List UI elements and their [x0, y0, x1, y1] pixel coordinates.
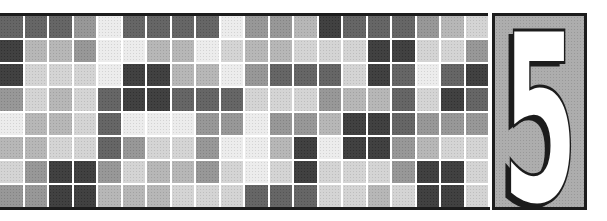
mosaic-tile [196, 88, 219, 110]
mosaic-tile [74, 113, 97, 135]
mosaic-tile [466, 161, 489, 183]
mosaic-tile [466, 88, 489, 110]
mosaic-tile [294, 161, 317, 183]
mosaic-tile [466, 64, 489, 86]
mosaic-tile [294, 16, 317, 38]
mosaic-tile [221, 185, 244, 207]
mosaic-tile [49, 161, 72, 183]
mosaic-tile [368, 88, 391, 110]
mosaic-tile [123, 64, 146, 86]
mosaic-tile [270, 40, 293, 62]
mosaic-tile [25, 16, 48, 38]
mosaic-tile [49, 137, 72, 159]
mosaic-tile [319, 137, 342, 159]
mosaic-tile [147, 113, 170, 135]
mosaic-tile [343, 185, 366, 207]
mosaic-tile [0, 161, 23, 183]
mosaic-tile [123, 16, 146, 38]
mosaic-tile [368, 16, 391, 38]
mosaic-tile [270, 113, 293, 135]
mosaic-tile [270, 88, 293, 110]
mosaic-tile [172, 113, 195, 135]
mosaic-tile [270, 185, 293, 207]
mosaic-tile [319, 161, 342, 183]
mosaic-tile [123, 137, 146, 159]
mosaic-tile [0, 88, 23, 110]
mosaic-tile [25, 40, 48, 62]
mosaic-tile [221, 64, 244, 86]
mosaic-tile [0, 185, 23, 207]
mosaic-tile [172, 40, 195, 62]
mosaic-tile [196, 16, 219, 38]
mosaic-tile [74, 16, 97, 38]
bottom-rule [0, 207, 490, 210]
mosaic-tile [441, 185, 464, 207]
mosaic-tile [147, 40, 170, 62]
mosaic-tile [98, 16, 121, 38]
mosaic-tile [221, 113, 244, 135]
mosaic-tile [270, 161, 293, 183]
mosaic-tile [49, 16, 72, 38]
mosaic-tile [417, 16, 440, 38]
mosaic-tile [98, 40, 121, 62]
mosaic-tile [0, 113, 23, 135]
mosaic-tile [417, 113, 440, 135]
mosaic-tile [49, 40, 72, 62]
mosaic-tile [466, 113, 489, 135]
mosaic-tile [172, 64, 195, 86]
mosaic-tile [172, 185, 195, 207]
mosaic-tile [25, 161, 48, 183]
mosaic-tile [319, 185, 342, 207]
mosaic-tile [245, 40, 268, 62]
mosaic-tile [25, 64, 48, 86]
mosaic-tile [98, 185, 121, 207]
mosaic-tile [74, 88, 97, 110]
mosaic-tile [221, 137, 244, 159]
mosaic-tile [294, 40, 317, 62]
mosaic-tile [221, 161, 244, 183]
mosaic-tile [441, 88, 464, 110]
mosaic-tile [172, 137, 195, 159]
mosaic-tile [123, 161, 146, 183]
mosaic-tile [466, 40, 489, 62]
mosaic-tile [245, 137, 268, 159]
mosaic-tile [147, 185, 170, 207]
mosaic-tile [319, 113, 342, 135]
mosaic-tile [417, 40, 440, 62]
mosaic-tile [417, 185, 440, 207]
mosaic-tile [368, 161, 391, 183]
mosaic-tile [196, 185, 219, 207]
mosaic-tile [25, 137, 48, 159]
mosaic-tile [417, 64, 440, 86]
mosaic-tile [25, 185, 48, 207]
mosaic-tile [245, 185, 268, 207]
mosaic-tile [0, 137, 23, 159]
mosaic-tile [392, 40, 415, 62]
mosaic-tile [343, 137, 366, 159]
mosaic-tile [294, 88, 317, 110]
mosaic-tile [49, 113, 72, 135]
mosaic-tile [123, 88, 146, 110]
mosaic-tile [368, 113, 391, 135]
mosaic-tile [123, 113, 146, 135]
mosaic-tile [368, 40, 391, 62]
mosaic-tile [270, 64, 293, 86]
mosaic-tile [441, 16, 464, 38]
mosaic-tile [417, 137, 440, 159]
mosaic-tile [392, 137, 415, 159]
mosaic-tile [245, 16, 268, 38]
mosaic-tile [0, 16, 23, 38]
mosaic-tile [270, 137, 293, 159]
mosaic-tile [294, 113, 317, 135]
mosaic-tile [392, 113, 415, 135]
mosaic-tile [343, 40, 366, 62]
mosaic-tile [25, 88, 48, 110]
mosaic-tile [147, 88, 170, 110]
mosaic-tile [98, 88, 121, 110]
mosaic-tile [392, 88, 415, 110]
mosaic-tile [98, 113, 121, 135]
mosaic-tile [343, 64, 366, 86]
mosaic-tile [147, 161, 170, 183]
mosaic-tile [368, 137, 391, 159]
mosaic-tile [392, 64, 415, 86]
